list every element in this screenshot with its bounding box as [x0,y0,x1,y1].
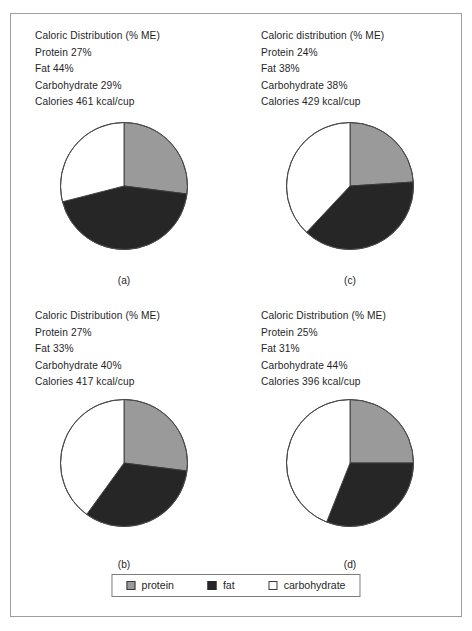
chart-legend: protein fat carbohydrate [111,574,360,597]
legend-item-carbohydrate: carbohydrate [269,579,346,591]
pie-slice-protein [124,400,188,471]
panel-b: Caloric Distribution (% ME) Protein 27% … [11,294,237,574]
legend-swatch-protein-icon [126,581,135,590]
legend-label-carbohydrate: carbohydrate [284,579,346,591]
panel-c-label: (c) [237,275,463,286]
panel-d-calories-line: Calories 396 kcal/cup [261,374,463,391]
panel-d-carbohydrate-line: Carbohydrate 44% [261,358,463,375]
panel-d-pie-wrap [237,398,463,528]
pie-chart-c [285,121,415,251]
panel-b-fat-line: Fat 33% [35,341,237,358]
panel-d-label: (d) [237,559,463,570]
panel-b-heading: Caloric Distribution (% ME) [35,308,237,325]
panel-a-heading: Caloric Distribution (% ME) [35,28,237,45]
legend-label-protein: protein [141,579,173,591]
panel-a-caption: Caloric Distribution (% ME) Protein 27% … [35,28,237,111]
panel-c-pie-wrap [237,121,463,251]
pie-slice-protein [350,400,414,464]
panel-c-caption: Caloric distribution (% ME) Protein 24% … [261,28,463,111]
legend-item-protein: protein [126,579,173,591]
panel-d-heading: Caloric Distribution (% ME) [261,308,463,325]
panel-c-protein-line: Protein 24% [261,45,463,62]
pie-chart-d [285,398,415,528]
panel-d-fat-line: Fat 31% [261,341,463,358]
panel-b-calories-line: Calories 417 kcal/cup [35,374,237,391]
figure-frame: Caloric Distribution (% ME) Protein 27% … [10,13,462,617]
panel-a-pie-wrap [11,121,237,251]
legend-swatch-carbohydrate-icon [269,581,278,590]
panel-a-label: (a) [11,275,237,286]
panel-a-calories-line: Calories 461 kcal/cup [35,94,237,111]
pie-chart-panel-grid: Caloric Distribution (% ME) Protein 27% … [11,14,463,574]
panel-c: Caloric distribution (% ME) Protein 24% … [237,14,463,294]
panel-d: Caloric Distribution (% ME) Protein 25% … [237,294,463,574]
panel-a-fat-line: Fat 44% [35,61,237,78]
panel-c-fat-line: Fat 38% [261,61,463,78]
panel-c-calories-line: Calories 429 kcal/cup [261,94,463,111]
panel-a-protein-line: Protein 27% [35,45,237,62]
pie-chart-b [59,398,189,528]
panel-b-carbohydrate-line: Carbohydrate 40% [35,358,237,375]
panel-d-protein-line: Protein 25% [261,325,463,342]
panel-b-caption: Caloric Distribution (% ME) Protein 27% … [35,308,237,391]
panel-c-heading: Caloric distribution (% ME) [261,28,463,45]
pie-slice-protein [124,123,188,194]
panel-b-label: (b) [11,559,237,570]
legend-label-fat: fat [223,579,235,591]
legend-swatch-fat-icon [208,581,217,590]
panel-b-pie-wrap [11,398,237,528]
legend-item-fat: fat [208,579,235,591]
panel-b-protein-line: Protein 27% [35,325,237,342]
panel-c-carbohydrate-line: Carbohydrate 38% [261,78,463,95]
pie-slice-protein [350,123,413,187]
pie-chart-a [59,121,189,251]
panel-a: Caloric Distribution (% ME) Protein 27% … [11,14,237,294]
panel-a-carbohydrate-line: Carbohydrate 29% [35,78,237,95]
panel-d-caption: Caloric Distribution (% ME) Protein 25% … [261,308,463,391]
